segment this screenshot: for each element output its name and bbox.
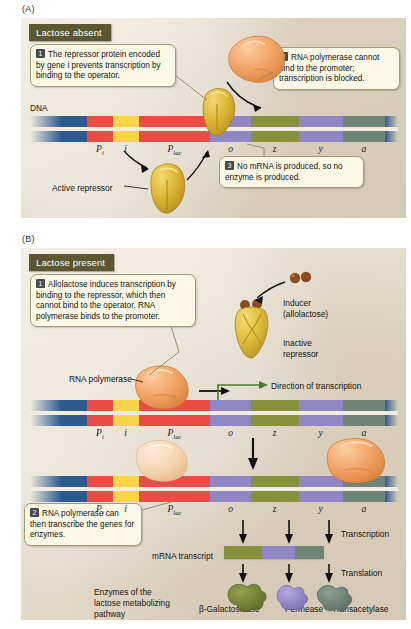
rna-polymerase-shape-b1 [136, 366, 189, 409]
arrow-polymerase-progress [248, 438, 258, 470]
panel-a-graphics [21, 18, 406, 218]
rna-polymerase-shape-a [229, 36, 285, 82]
inducer-molecule-shape [290, 272, 311, 283]
arrow-repressor-to-operator [187, 150, 210, 180]
active-repressor-free-shape [151, 164, 185, 213]
translation-arrows [239, 564, 333, 583]
permease-shape [277, 585, 308, 610]
panel-b-letter: (B) [22, 234, 35, 244]
active-repressor-leader [124, 186, 148, 189]
rna-polymerase-shape-b2-bright [327, 439, 384, 484]
arrow-inducer-to-repressor [255, 282, 285, 304]
panel-lactose-absent: Lactose absent 1The repressor protein en… [21, 18, 406, 218]
panel-b-graphics [21, 248, 406, 620]
callout-b-2-tail [142, 502, 171, 510]
rna-polymerase-shape-b2-pale [136, 440, 187, 481]
transacetylase-shape [317, 585, 351, 610]
arrow-polymerase-moves [199, 387, 230, 395]
callout-a-3-tail [247, 144, 264, 156]
panel-a-letter: (A) [22, 4, 35, 14]
transcription-arrows [239, 520, 333, 544]
active-repressor-bound-shape [203, 89, 235, 136]
beta-galactosidase-shape [228, 584, 266, 611]
panel-lactose-present: Lactose present 1Allolactose induces tra… [21, 248, 406, 620]
inactive-repressor-shape [235, 299, 268, 358]
arrow-i-to-repressor [124, 151, 149, 173]
callout-a-1-tail [176, 76, 207, 100]
